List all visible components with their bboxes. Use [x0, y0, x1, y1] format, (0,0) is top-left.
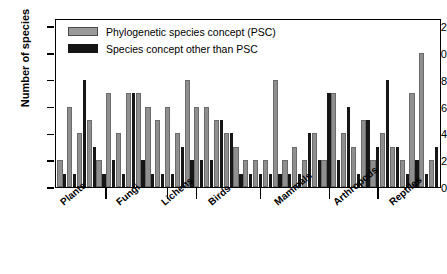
bar-psc-2 — [67, 107, 72, 187]
bar-psc-74 — [419, 53, 424, 187]
bar-other-69 — [396, 147, 399, 187]
bar-other-43 — [269, 174, 272, 187]
legend-entry-psc: Phylogenetic species concept (PSC) — [68, 24, 276, 39]
legend-label-psc: Phylogenetic species concept (PSC) — [106, 26, 276, 38]
bar-psc-46 — [282, 160, 287, 187]
bar-psc-28 — [194, 107, 199, 187]
bar-other-17 — [141, 160, 144, 187]
legend-swatch-psc — [68, 27, 98, 36]
bar-psc-54 — [321, 160, 326, 187]
bar-psc-36 — [233, 147, 238, 187]
bar-other-59 — [347, 107, 350, 187]
bar-other-1 — [63, 174, 66, 187]
y-axis-tick — [47, 80, 54, 81]
bar-psc-12 — [116, 133, 121, 187]
bar-other-77 — [435, 147, 438, 187]
bar-psc-58 — [341, 133, 346, 187]
bar-psc-66 — [380, 133, 385, 187]
bar-other-13 — [122, 174, 125, 187]
x-axis-group-tick — [105, 188, 106, 199]
bar-other-45 — [278, 174, 281, 187]
bar-psc-68 — [390, 147, 395, 187]
bar-psc-8 — [96, 160, 101, 187]
bar-psc-18 — [145, 107, 150, 187]
legend-entry-other: Species concept other than PSC — [68, 41, 276, 56]
bar-psc-4 — [77, 133, 82, 187]
bar-other-15 — [132, 93, 135, 187]
y-axis-tick — [47, 107, 54, 108]
bar-psc-40 — [253, 160, 258, 187]
bar-other-37 — [239, 174, 242, 187]
bar-other-57 — [337, 160, 340, 187]
bar-other-33 — [220, 120, 223, 187]
x-axis-group-tick — [196, 188, 197, 199]
y-axis-tick — [47, 187, 54, 188]
bar-psc-16 — [136, 93, 141, 187]
bar-psc-32 — [214, 120, 219, 187]
y-axis-tick — [47, 160, 54, 161]
legend-label-other: Species concept other than PSC — [106, 43, 258, 55]
chart-legend: Phylogenetic species concept (PSC) Speci… — [68, 24, 276, 58]
bar-other-75 — [425, 174, 428, 187]
bar-other-9 — [102, 174, 105, 187]
bar-psc-26 — [185, 80, 190, 187]
bar-other-29 — [200, 160, 203, 187]
bar-psc-76 — [429, 160, 434, 187]
bar-psc-56 — [331, 93, 336, 187]
x-axis-group-tick — [329, 188, 330, 199]
bar-psc-24 — [175, 133, 180, 187]
bar-other-11 — [112, 160, 115, 187]
bar-psc-6 — [87, 120, 92, 187]
chart-figure: Number of species 024681012 Phylogenetic… — [0, 0, 447, 274]
bar-psc-20 — [155, 120, 160, 187]
y-axis-tick — [47, 53, 54, 54]
bar-other-67 — [386, 80, 389, 187]
bar-other-7 — [93, 147, 96, 187]
bar-psc-42 — [263, 160, 268, 187]
bar-other-5 — [83, 80, 86, 187]
bar-other-65 — [376, 147, 379, 187]
bar-psc-72 — [409, 93, 414, 187]
bar-other-41 — [259, 174, 262, 187]
y-axis-tick — [47, 134, 54, 135]
bar-psc-22 — [165, 107, 170, 187]
bar-psc-14 — [126, 93, 131, 187]
bar-other-55 — [327, 93, 330, 187]
y-axis-tick — [47, 26, 54, 27]
bar-psc-10 — [106, 93, 111, 187]
legend-swatch-other — [68, 44, 98, 53]
bar-other-31 — [210, 160, 213, 187]
y-axis-title: Number of species — [19, 0, 31, 138]
x-axis-group-tick — [260, 188, 261, 199]
bar-psc-34 — [224, 133, 229, 187]
bar-other-21 — [161, 174, 164, 187]
bar-other-35 — [230, 133, 233, 187]
bar-psc-0 — [57, 160, 62, 187]
bar-psc-30 — [204, 107, 209, 187]
bar-other-19 — [151, 174, 154, 187]
bar-other-39 — [249, 174, 252, 187]
bar-psc-38 — [243, 160, 248, 187]
bar-psc-44 — [273, 80, 278, 187]
bar-other-53 — [318, 160, 321, 187]
x-axis-group-tick — [377, 188, 378, 199]
